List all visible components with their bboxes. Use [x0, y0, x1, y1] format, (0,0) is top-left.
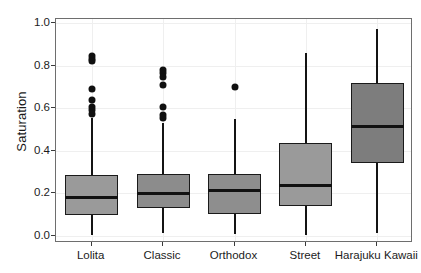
- outlier-point: [88, 86, 95, 93]
- outlier-point: [88, 58, 95, 65]
- median-line: [208, 189, 261, 192]
- x-axis-tick-label: Lolita: [77, 249, 105, 261]
- outlier-point: [88, 110, 95, 117]
- plot-panel: [55, 18, 412, 242]
- whisker-lower: [162, 208, 164, 232]
- box-body: [279, 143, 332, 206]
- x-axis-tick-mark: [234, 242, 235, 246]
- x-axis-tick-mark: [91, 242, 92, 246]
- gridline-horizontal: [56, 23, 411, 24]
- whisker-lower: [91, 215, 93, 235]
- y-axis-tick-labels: 1.00.80.60.40.20.0: [18, 0, 50, 273]
- whisker-lower: [305, 206, 307, 235]
- x-axis-tick-label: Orthodox: [210, 249, 257, 261]
- median-line: [279, 184, 332, 187]
- outlier-point: [231, 83, 238, 90]
- x-axis-tick-label: Classic: [144, 249, 181, 261]
- y-axis-tick-mark: [51, 192, 55, 193]
- y-axis-tick-mark: [51, 65, 55, 66]
- y-axis-tick-mark: [51, 235, 55, 236]
- gridline-horizontal: [56, 236, 411, 237]
- outlier-point: [160, 74, 167, 81]
- y-axis-tick-label: 0.4: [18, 144, 50, 156]
- y-axis-tick-label: 0.2: [18, 186, 50, 198]
- whisker-lower: [376, 163, 378, 233]
- whisker-upper: [376, 29, 378, 82]
- box-plot-chart: Saturation 1.00.80.60.40.20.0 LolitaClas…: [0, 0, 421, 273]
- gridline-horizontal: [56, 66, 411, 67]
- x-axis-tick-label: Harajuku Kawaii: [335, 249, 418, 261]
- y-axis-tick-label: 1.0: [18, 16, 50, 28]
- y-axis-tick-mark: [51, 22, 55, 23]
- x-axis-tick-label: Street: [290, 249, 321, 261]
- whisker-upper: [305, 53, 307, 144]
- whisker-upper: [234, 119, 236, 174]
- median-line: [137, 192, 190, 195]
- whisker-lower: [234, 214, 236, 234]
- box-body: [208, 174, 261, 213]
- x-axis-tick-mark: [305, 242, 306, 246]
- median-line: [65, 196, 118, 199]
- y-axis-tick-label: 0.0: [18, 229, 50, 241]
- box-body: [65, 175, 118, 214]
- y-axis-tick-label: 0.8: [18, 59, 50, 71]
- y-axis-tick-mark: [51, 150, 55, 151]
- outlier-point: [160, 81, 167, 88]
- median-line: [351, 125, 404, 128]
- outlier-point: [160, 104, 167, 111]
- box-body: [351, 83, 404, 163]
- outlier-point: [88, 96, 95, 103]
- whisker-upper: [162, 123, 164, 174]
- y-axis-tick-label: 0.6: [18, 101, 50, 113]
- x-axis-tick-mark: [162, 242, 163, 246]
- y-axis-tick-mark: [51, 107, 55, 108]
- x-axis-tick-mark: [376, 242, 377, 246]
- outlier-point: [160, 114, 167, 121]
- whisker-upper: [91, 118, 93, 176]
